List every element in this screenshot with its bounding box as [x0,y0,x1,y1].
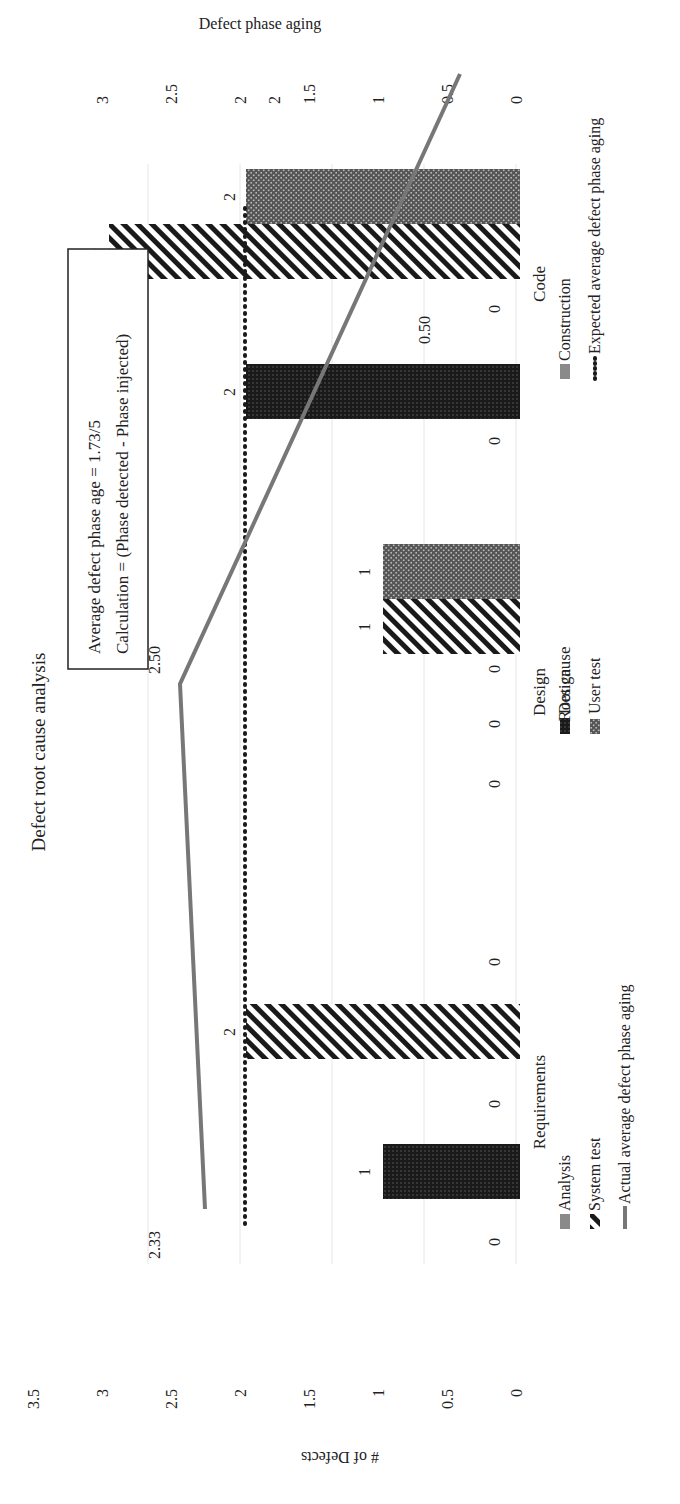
svg-text:0: 0 [486,437,503,445]
svg-text:Construction: Construction [556,278,573,361]
svg-text:0: 0 [508,96,525,104]
svg-text:0: 0 [486,305,503,313]
svg-text:Code: Code [530,266,549,302]
svg-text:2: 2 [221,193,238,201]
bar-design-system [383,599,520,654]
svg-text:User test: User test [586,657,603,714]
svg-text:0: 0 [486,1100,503,1108]
bar-design-user [383,544,520,599]
svg-text:Design: Design [556,669,574,714]
svg-text:2: 2 [266,96,283,104]
bar-code-design [246,364,520,419]
svg-text:0: 0 [486,720,503,728]
svg-text:3.5: 3.5 [25,1389,42,1409]
bar-code-system [109,224,520,279]
svg-text:1: 1 [356,568,373,576]
svg-text:1.5: 1.5 [301,84,318,104]
svg-text:0: 0 [486,1238,503,1246]
bar-req-design [383,1144,520,1199]
svg-text:Actual average defect phase ag: Actual average defect phase aging [616,985,634,1204]
y-axis-label: # of Defects [301,1449,379,1466]
chart-title: Defect root cause analysis [28,653,49,852]
bar-code-user [246,169,520,224]
x-axis-labels: Requirements Design Code [530,266,549,1149]
bars [109,169,520,1199]
svg-text:Average defect phase age = 1.7: Average defect phase age = 1.73/5 [85,420,104,654]
svg-text:0: 0 [486,665,503,673]
svg-text:1.5: 1.5 [301,1389,318,1409]
bar-req-system [246,1004,520,1059]
gridlines [148,164,516,1264]
svg-text:2: 2 [221,388,238,396]
svg-text:3: 3 [94,1389,111,1397]
svg-text:3: 3 [94,96,111,104]
svg-text:2: 2 [232,96,249,104]
svg-text:0: 0 [486,780,503,788]
svg-text:2.5: 2.5 [163,1389,180,1409]
annotation-box: Average defect phase age = 1.73/5 Calcul… [68,249,148,669]
rotated-chart: Defect root cause analysis 0 0.5 1 1.5 2… [0,0,680,1504]
svg-text:0: 0 [508,1389,525,1397]
svg-text:0.5: 0.5 [439,1389,456,1409]
svg-text:1: 1 [370,96,387,104]
svg-text:1: 1 [356,1168,373,1176]
svg-text:2: 2 [232,1389,249,1397]
actual-label-3: 0.50 [416,316,433,344]
svg-text:1: 1 [370,1389,387,1397]
svg-text:Expected average defect phase: Expected average defect phase aging [586,118,604,354]
chart-svg: Defect root cause analysis 0 0.5 1 1.5 2… [0,0,680,1504]
svg-text:1: 1 [356,623,373,631]
svg-text:0: 0 [486,958,503,966]
y-axis-right: 0 0.5 1 1.5 2 2 2.5 3 [94,84,525,104]
svg-text:Calculation = (Phase detected: Calculation = (Phase detected - Phase in… [113,334,132,654]
legend: Analysis Design Construction System test… [556,118,634,1229]
svg-text:Analysis: Analysis [556,1155,574,1211]
svg-text:2.5: 2.5 [163,84,180,104]
svg-text:Requirements: Requirements [530,1055,549,1149]
y-axis-left: 0 0.5 1 1.5 2 2.5 3 3.5 [25,1389,525,1409]
svg-text:Design: Design [530,667,549,716]
y2-axis-label: Defect phase aging [199,15,322,33]
actual-label-1: 2.33 [146,1231,163,1259]
svg-text:2: 2 [221,1028,238,1036]
svg-text:System test: System test [586,1137,604,1211]
